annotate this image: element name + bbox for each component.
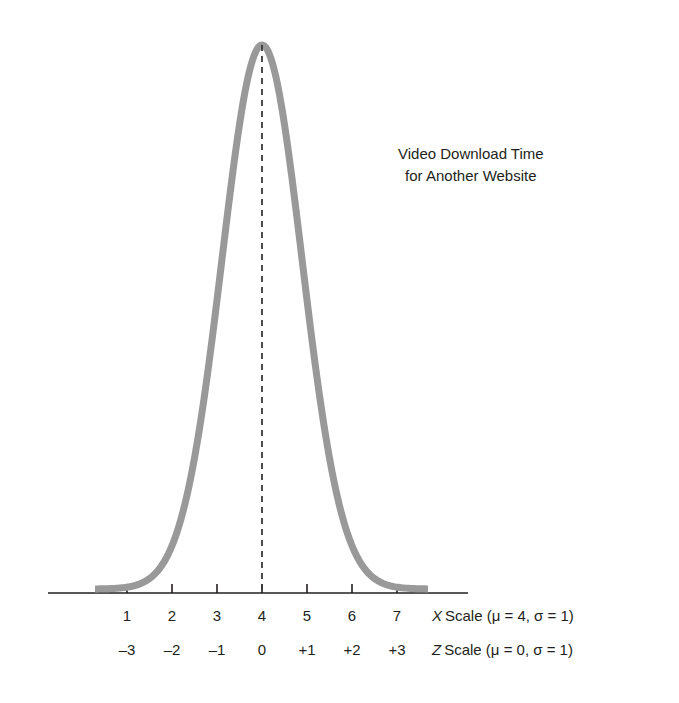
curve-annotation-line-1: Video Download Time [398,143,544,165]
normal-curve-figure [0,0,679,703]
curve-annotation-line-2: for Another Website [398,165,544,187]
x-tick-label-4: 5 [287,606,327,626]
z-scale-tick-labels: –3–2–10+1+2+3 [0,640,679,660]
z-tick-label-3: 0 [242,640,282,660]
x-tick-label-1: 2 [152,606,192,626]
x-scale-variable: X [432,607,445,624]
z-tick-label-4: +1 [287,640,327,660]
z-scale-variable: Z [432,641,444,658]
z-tick-label-5: +2 [332,640,372,660]
x-tick-label-3: 4 [242,606,282,626]
x-scale-caption: XScale (μ = 4, σ = 1) [432,606,574,626]
z-scale-caption: ZScale (μ = 0, σ = 1) [432,640,573,660]
x-tick-label-2: 3 [197,606,237,626]
x-scale-tick-labels: 1234567 [0,606,679,626]
x-tick-label-6: 7 [377,606,417,626]
z-tick-label-1: –2 [152,640,192,660]
x-scale-caption-text: Scale (μ = 4, σ = 1) [445,607,574,624]
z-tick-label-6: +3 [377,640,417,660]
curve-annotation-label: Video Download Time for Another Website [398,143,544,187]
z-tick-label-2: –1 [197,640,237,660]
z-scale-caption-text: Scale (μ = 0, σ = 1) [444,641,573,658]
z-tick-label-0: –3 [107,640,147,660]
x-tick-label-5: 6 [332,606,372,626]
x-tick-label-0: 1 [107,606,147,626]
